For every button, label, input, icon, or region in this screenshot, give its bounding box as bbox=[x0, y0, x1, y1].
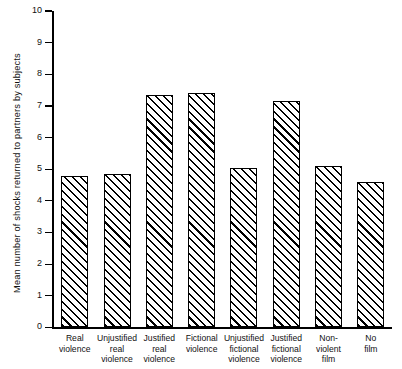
bar-2 bbox=[146, 95, 173, 328]
y-tick-label-6: 6 bbox=[2, 133, 42, 142]
x-category-label-line: Fictional bbox=[178, 333, 226, 344]
y-tick-label-9: 9 bbox=[2, 38, 42, 47]
x-category-label-7: Nofilm bbox=[347, 333, 395, 354]
y-tick-7 bbox=[45, 105, 52, 106]
x-category-label-line: real bbox=[135, 344, 183, 355]
y-tick-2 bbox=[45, 264, 52, 265]
x-category-label-line: Unjustified bbox=[220, 333, 268, 344]
bar-6 bbox=[315, 166, 342, 327]
y-tick-label-3: 3 bbox=[2, 227, 42, 236]
y-tick-label-0: 0 bbox=[2, 322, 42, 331]
y-tick-3 bbox=[45, 232, 52, 233]
bar-0 bbox=[61, 176, 88, 328]
x-category-label-line: violence bbox=[135, 354, 183, 365]
x-category-label-line: No bbox=[347, 333, 395, 344]
y-tick-label-2: 2 bbox=[2, 259, 42, 268]
bar-4 bbox=[230, 168, 257, 328]
x-category-label-5: Justifiedfictionalviolence bbox=[262, 333, 310, 365]
bar-5 bbox=[273, 101, 300, 327]
x-category-label-2: Justifiedrealviolence bbox=[135, 333, 183, 365]
x-category-label-line: Justified bbox=[135, 333, 183, 344]
y-tick-label-10: 10 bbox=[2, 6, 42, 15]
y-tick-6 bbox=[45, 137, 52, 138]
y-tick-4 bbox=[45, 200, 52, 201]
x-category-label-line: violence bbox=[262, 354, 310, 365]
y-tick-0 bbox=[45, 327, 52, 328]
y-axis-line bbox=[52, 11, 54, 329]
y-tick-label-7: 7 bbox=[2, 101, 42, 110]
bar-7 bbox=[357, 182, 384, 328]
x-category-label-line: violence bbox=[178, 344, 226, 355]
x-category-label-line: fictional bbox=[220, 344, 268, 355]
y-tick-5 bbox=[45, 169, 52, 170]
y-tick-10 bbox=[45, 10, 52, 11]
x-category-label-line: Real bbox=[51, 333, 99, 344]
y-tick-8 bbox=[45, 74, 52, 75]
x-category-label-line: Non- bbox=[304, 333, 352, 344]
bar-3 bbox=[188, 93, 215, 327]
bar-chart: Mean number of shocks returned to partne… bbox=[0, 0, 402, 369]
x-category-label-line: violence bbox=[220, 354, 268, 365]
x-category-label-line: fictional bbox=[262, 344, 310, 355]
x-category-label-line: film bbox=[347, 344, 395, 355]
x-category-label-1: Unjustifiedrealviolence bbox=[93, 333, 141, 365]
x-category-label-line: Unjustified bbox=[93, 333, 141, 344]
y-tick-label-1: 1 bbox=[2, 291, 42, 300]
x-category-label-line: violent bbox=[304, 344, 352, 355]
x-category-label-line: violence bbox=[93, 354, 141, 365]
x-category-label-6: Non-violentfilm bbox=[304, 333, 352, 365]
x-category-label-line: violence bbox=[51, 344, 99, 355]
bar-1 bbox=[104, 174, 131, 327]
y-tick-label-5: 5 bbox=[2, 164, 42, 173]
y-tick-1 bbox=[45, 295, 52, 296]
x-category-label-line: Justified bbox=[262, 333, 310, 344]
x-axis-line bbox=[52, 327, 392, 329]
y-tick-label-8: 8 bbox=[2, 69, 42, 78]
y-tick-9 bbox=[45, 42, 52, 43]
x-category-label-3: Fictionalviolence bbox=[178, 333, 226, 354]
x-category-label-line: film bbox=[304, 354, 352, 365]
x-category-label-0: Realviolence bbox=[51, 333, 99, 354]
y-tick-label-4: 4 bbox=[2, 196, 42, 205]
x-category-label-4: Unjustifiedfictionalviolence bbox=[220, 333, 268, 365]
x-category-label-line: real bbox=[93, 344, 141, 355]
